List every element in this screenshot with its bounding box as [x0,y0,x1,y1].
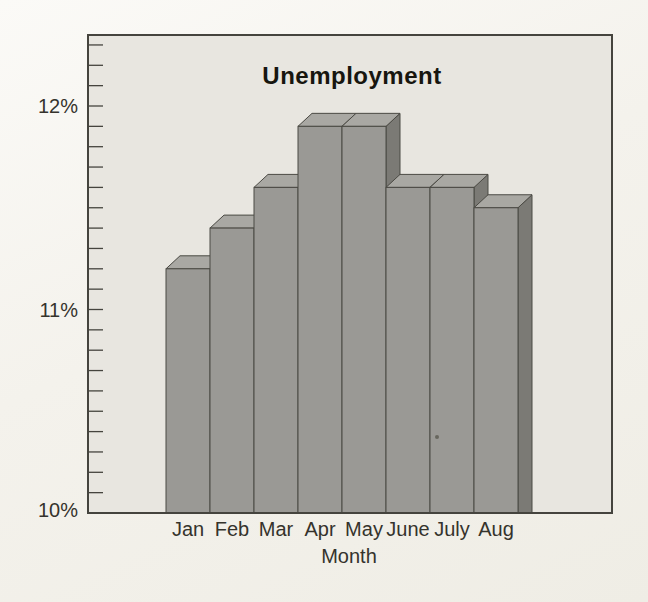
bar-front-face [298,126,342,513]
chart-title: Unemployment [262,62,441,90]
month-label: Feb [215,518,249,541]
month-label: Aug [478,518,514,541]
bar-front-face [342,126,386,513]
month-label: Apr [304,518,335,541]
bar-front-face [166,269,210,513]
y-axis-label: 10% [38,499,78,522]
month-label: May [345,518,383,541]
month-label: June [386,518,429,541]
bar-front-face [254,187,298,513]
chart-canvas [0,0,648,602]
bar-front-face [210,228,254,513]
bar-front-face [474,208,518,513]
unemployment-bar-chart: Unemployment 10%11%12% JanFebMarAprMayJu… [0,0,648,602]
month-label: Mar [259,518,293,541]
month-label: July [434,518,470,541]
y-axis-label: 11% [39,298,78,321]
scan-speck-artifact [435,435,439,439]
scanned-chart-page: Unemployment 10%11%12% JanFebMarAprMayJu… [0,0,648,602]
month-label: Jan [172,518,204,541]
y-axis-label: 12% [38,95,78,118]
bar-side-face [518,195,532,513]
x-axis-title: Month [321,545,377,568]
bar-front-face [386,187,430,513]
bar-front-face [430,187,474,513]
